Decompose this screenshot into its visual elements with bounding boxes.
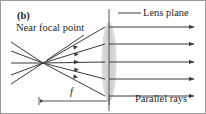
panel-label: (b) <box>17 11 30 22</box>
focal-length-label: f <box>70 87 73 98</box>
figure-panel-b: (b) Near focal point Lens plane Parallel… <box>0 0 206 114</box>
parallel-rays-label: Parallel rays <box>135 94 187 105</box>
focal-ray-arrowheads <box>73 46 79 79</box>
incoming-rays <box>11 42 43 84</box>
near-focal-point-label: Near focal point <box>16 23 84 34</box>
lens-plane-label: Lens plane <box>143 8 189 19</box>
outgoing-parallel-rays <box>109 27 194 96</box>
